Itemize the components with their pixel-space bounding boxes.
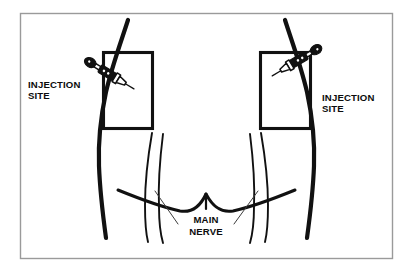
right-injection-site-label-line2: SITE (322, 103, 344, 114)
main-nerve-label-line1: MAIN (193, 214, 218, 225)
diagram-page: INJECTION SITE INJECTION SITE MAIN NERVE (0, 0, 411, 277)
right-injection-site-label-line1: INJECTION (322, 92, 375, 103)
left-injection-site-label-line1: INJECTION (28, 79, 81, 90)
left-injection-site-label-line2: SITE (28, 90, 50, 101)
main-nerve-label-line2: NERVE (189, 226, 223, 237)
injection-site-diagram: INJECTION SITE INJECTION SITE MAIN NERVE (0, 0, 411, 277)
